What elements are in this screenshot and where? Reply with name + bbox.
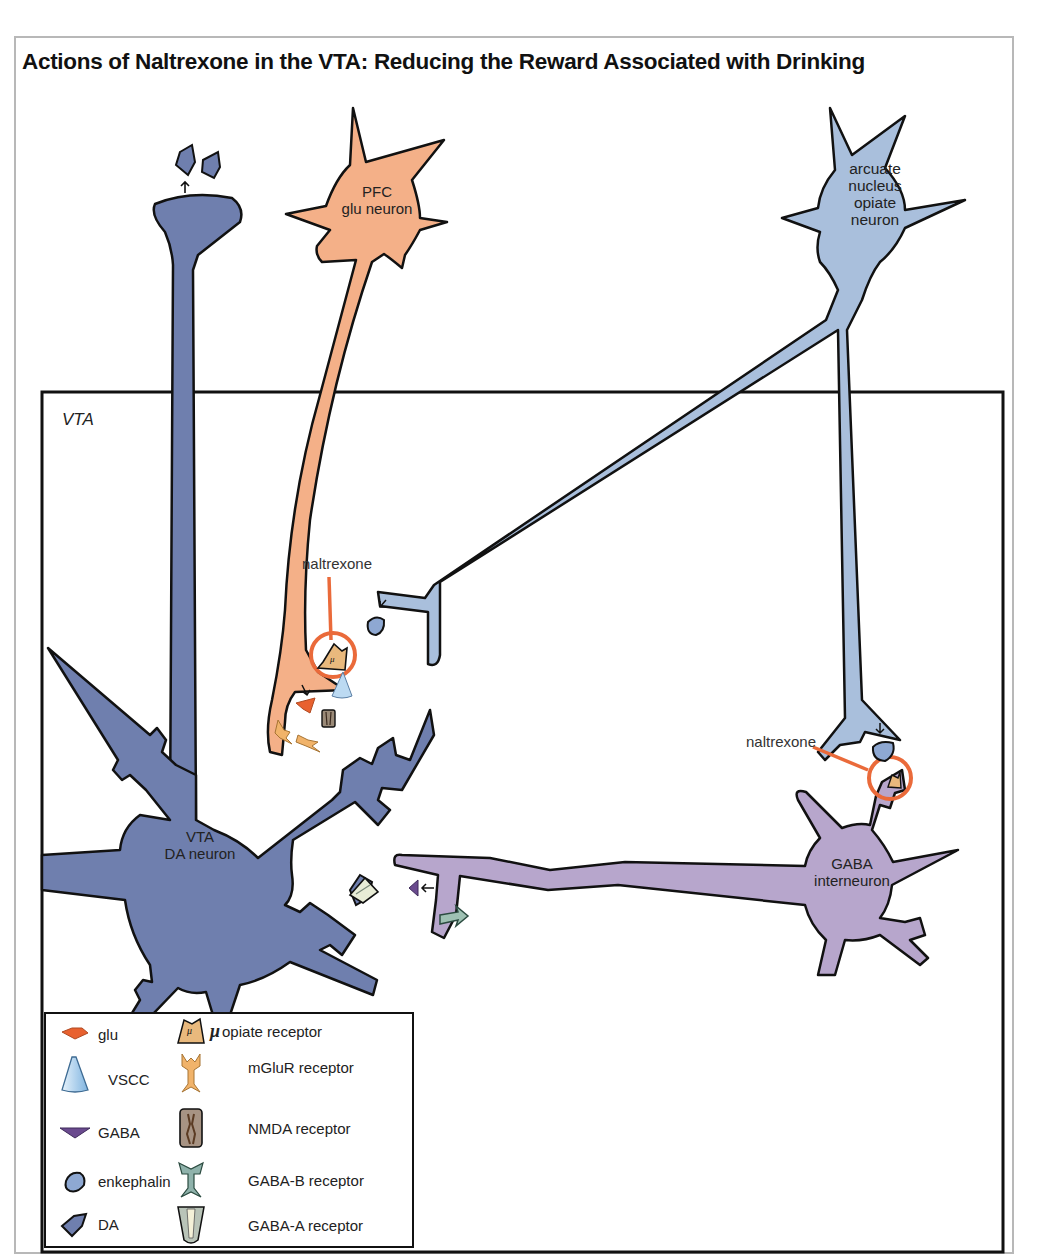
nmda-receptor — [322, 710, 335, 727]
legend-item-vscc: VSCC — [58, 1054, 150, 1094]
legend: glu VSCC GABA enkephalin DA μ μ opiate r… — [44, 1012, 414, 1248]
da-molecules-released — [176, 145, 220, 178]
svg-text:μ: μ — [329, 654, 335, 664]
mu-symbol: μ — [210, 1021, 220, 1042]
naltrexone-label-1: naltrexone — [302, 555, 372, 572]
arcuate-neuron-label: arcuate nucleus opiate neuron — [830, 160, 920, 228]
vscc-icon — [58, 1054, 92, 1094]
gaba-a-receptor-icon — [174, 1204, 208, 1246]
legend-item-glu: glu — [58, 1020, 118, 1048]
legend-item-da: DA — [58, 1210, 119, 1238]
glu-icon — [58, 1020, 92, 1048]
legend-item-nmda-receptor: NMDA receptor — [174, 1106, 351, 1150]
enkephalin-molecule — [368, 617, 384, 635]
legend-item-mglur-receptor: mGluR receptor — [174, 1052, 354, 1094]
gaba-interneuron-label: GABA interneuron — [802, 855, 902, 889]
opiate-receptor-icon: μ — [174, 1017, 208, 1045]
gaba-b-receptor-icon — [174, 1160, 208, 1200]
da-icon — [58, 1210, 92, 1238]
mglur-receptor-icon — [174, 1052, 208, 1094]
vta-region-label: VTA — [62, 410, 94, 430]
legend-item-gaba: GABA — [58, 1118, 140, 1146]
vta-da-neuron-label: VTA DA neuron — [130, 828, 270, 862]
gaba-icon — [58, 1118, 92, 1146]
pfc-neuron-label: PFC glu neuron — [322, 183, 432, 217]
svg-text:μ: μ — [186, 1025, 192, 1036]
enkephalin-icon — [58, 1167, 92, 1195]
naltrexone-label-2: naltrexone — [746, 733, 816, 750]
release-arrow-icon — [181, 182, 189, 193]
legend-item-enkephalin: enkephalin — [58, 1167, 171, 1195]
legend-item-opiate-receptor: μ μ opiate receptor — [174, 1017, 322, 1045]
nmda-receptor-icon — [174, 1106, 208, 1150]
legend-item-gaba-b-receptor: GABA-B receptor — [174, 1160, 364, 1200]
legend-item-gaba-a-receptor: GABA-A receptor — [174, 1204, 363, 1246]
